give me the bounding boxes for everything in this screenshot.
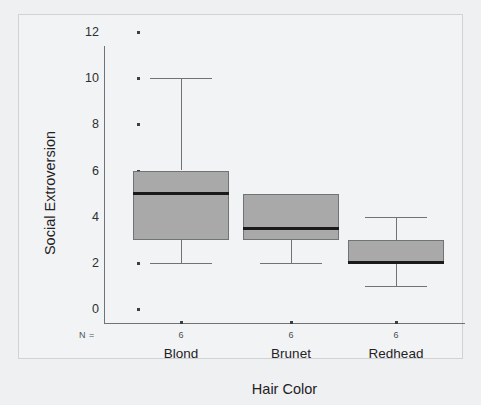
y-tick-label: 8 bbox=[92, 118, 99, 131]
upper-whisker-cap bbox=[150, 78, 212, 79]
lower-whisker-stem bbox=[291, 240, 292, 263]
x-tick-mark bbox=[395, 321, 398, 324]
y-tick-mark bbox=[137, 31, 140, 34]
boxplot-figure: 024681012 Social Extroversion Hair Color… bbox=[0, 0, 481, 405]
lower-whisker-stem bbox=[181, 240, 182, 263]
y-tick-label: 2 bbox=[92, 257, 99, 270]
upper-whisker-stem bbox=[396, 217, 397, 240]
plot-area: 024681012 Social Extroversion Hair Color… bbox=[18, 14, 463, 359]
y-tick-label: 10 bbox=[85, 72, 99, 85]
y-tick-label: 0 bbox=[92, 303, 99, 316]
median-line bbox=[243, 227, 339, 230]
y-tick-mark bbox=[137, 77, 140, 80]
lower-whisker-cap bbox=[365, 286, 427, 287]
y-axis-ticks: 024681012 bbox=[71, 15, 99, 405]
lower-whisker-cap bbox=[150, 263, 212, 264]
y-tick-mark bbox=[137, 123, 140, 126]
n-count-value: 6 bbox=[161, 330, 201, 340]
iqr-box[interactable] bbox=[348, 240, 444, 263]
y-axis-line bbox=[104, 46, 105, 324]
x-axis-title: Hair Color bbox=[104, 381, 465, 397]
iqr-box[interactable] bbox=[243, 194, 339, 240]
x-category-label: Blond bbox=[126, 346, 236, 361]
x-tick-mark bbox=[290, 321, 293, 324]
n-count-value: 6 bbox=[376, 330, 416, 340]
upper-whisker-stem bbox=[181, 78, 182, 170]
x-tick-mark bbox=[180, 321, 183, 324]
n-equals-label: N = bbox=[79, 330, 95, 340]
y-tick-label: 6 bbox=[92, 165, 99, 178]
median-line bbox=[348, 261, 444, 264]
median-line bbox=[133, 192, 229, 195]
lower-whisker-cap bbox=[260, 263, 322, 264]
x-category-label: Brunet bbox=[236, 346, 346, 361]
y-tick-label: 4 bbox=[92, 211, 99, 224]
iqr-box[interactable] bbox=[133, 171, 229, 240]
y-tick-mark bbox=[137, 308, 140, 311]
y-tick-mark bbox=[137, 262, 140, 265]
upper-whisker-cap bbox=[365, 217, 427, 218]
lower-whisker-stem bbox=[396, 263, 397, 286]
x-category-label: Redhead bbox=[341, 346, 451, 361]
n-count-value: 6 bbox=[271, 330, 311, 340]
y-axis-title: Social Extroversion bbox=[42, 103, 58, 283]
y-tick-label: 12 bbox=[85, 26, 99, 39]
x-axis-line bbox=[104, 323, 465, 324]
